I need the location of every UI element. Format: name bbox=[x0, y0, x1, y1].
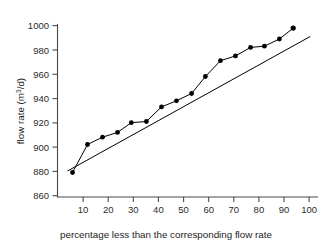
y-tick-label-880: 880 bbox=[33, 166, 49, 177]
data-point bbox=[100, 135, 105, 140]
data-point bbox=[203, 74, 208, 79]
data-point bbox=[129, 120, 134, 125]
x-tick-label-90: 90 bbox=[279, 204, 290, 215]
y-tick-label-980: 980 bbox=[33, 45, 49, 56]
y-axis-ticks bbox=[53, 26, 58, 196]
y-tick-label-1000: 1000 bbox=[28, 20, 49, 31]
y-axis-title: flow rate (m3/d) bbox=[15, 78, 26, 144]
data-point-markers bbox=[70, 26, 296, 175]
data-point bbox=[85, 142, 90, 147]
x-tick-label-70: 70 bbox=[229, 204, 240, 215]
x-tick-label-50: 50 bbox=[178, 204, 189, 215]
x-axis-tick-labels: 10 20 30 40 50 60 70 80 90 100 bbox=[78, 204, 317, 215]
x-tick-label-30: 30 bbox=[128, 204, 139, 215]
data-point bbox=[248, 45, 253, 50]
x-axis-ticks bbox=[83, 197, 309, 202]
data-point bbox=[189, 91, 194, 96]
x-tick-label-100: 100 bbox=[301, 204, 317, 215]
y-tick-label-900: 900 bbox=[33, 142, 49, 153]
data-point bbox=[218, 58, 223, 63]
x-axis-title: percentage less than the corresponding f… bbox=[60, 229, 272, 240]
data-point bbox=[70, 170, 75, 175]
x-tick-label-40: 40 bbox=[153, 204, 164, 215]
data-point bbox=[115, 130, 120, 135]
y-tick-label-920: 920 bbox=[33, 117, 49, 128]
y-axis-title-tail: /d) bbox=[15, 78, 26, 89]
data-point bbox=[144, 119, 149, 124]
data-point bbox=[233, 54, 238, 59]
y-axis-title-base: flow rate (m bbox=[15, 93, 26, 144]
data-point bbox=[174, 98, 179, 103]
y-tick-label-860: 860 bbox=[33, 190, 49, 201]
y-tick-label-960: 960 bbox=[33, 69, 49, 80]
data-point bbox=[159, 105, 164, 110]
flow-rate-probability-plot: 1000 980 960 940 920 900 880 860 10 20 bbox=[0, 0, 332, 249]
x-tick-label-20: 20 bbox=[103, 204, 114, 215]
y-axis-tick-labels: 1000 980 960 940 920 900 880 860 bbox=[28, 20, 49, 201]
x-tick-label-10: 10 bbox=[78, 204, 89, 215]
data-point bbox=[262, 44, 267, 49]
data-point bbox=[277, 37, 282, 42]
straight-line-fit bbox=[68, 37, 311, 172]
x-tick-label-80: 80 bbox=[254, 204, 265, 215]
x-tick-label-60: 60 bbox=[203, 204, 214, 215]
chart-figure: 1000 980 960 940 920 900 880 860 10 20 bbox=[0, 0, 332, 249]
data-point bbox=[291, 26, 296, 31]
y-tick-label-940: 940 bbox=[33, 93, 49, 104]
flow-rate-data-polyline bbox=[73, 28, 294, 172]
